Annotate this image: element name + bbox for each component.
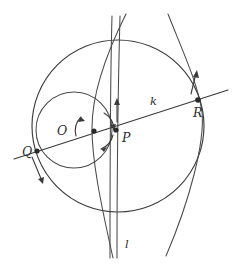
point-p-label: P [121, 130, 131, 145]
point-p [113, 127, 118, 132]
point-t [91, 128, 96, 133]
line-l-label: l [125, 237, 129, 251]
arrow-up-right-head [193, 70, 199, 78]
geometry-figure: Q O P R k l [0, 0, 236, 266]
circle-inner [36, 92, 112, 168]
diagram-canvas: Q O P R k l [0, 0, 236, 266]
curve-through-r [166, 14, 202, 256]
point-r-label: R [192, 105, 202, 120]
line-l-right [117, 16, 120, 258]
arrow-down-left [32, 157, 42, 181]
arrow-down-left-head [38, 177, 44, 184]
curve-through-intersection [92, 14, 126, 258]
line-k-label: k [150, 94, 157, 108]
point-r [195, 97, 201, 103]
point-o-label: O [57, 123, 67, 138]
point-q-label: Q [22, 144, 32, 159]
point-q [34, 148, 39, 153]
arrow-up-center-head [114, 98, 120, 105]
